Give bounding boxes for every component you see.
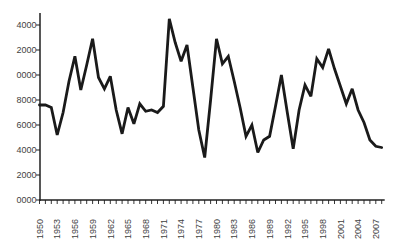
x-tick-label: 1968 bbox=[141, 219, 151, 239]
y-tick-label: 2000 bbox=[16, 170, 36, 180]
y-tick-label: 0000 bbox=[16, 195, 36, 205]
x-tick-label: 1983 bbox=[229, 219, 239, 239]
y-tick-label: 6000 bbox=[16, 120, 36, 130]
x-tick-label: 1974 bbox=[176, 219, 186, 239]
x-tick-label: 2007 bbox=[371, 219, 381, 239]
y-tick-label: 4000 bbox=[16, 20, 36, 30]
x-tick-label: 1980 bbox=[212, 219, 222, 239]
y-tick-label: 8000 bbox=[16, 95, 36, 105]
y-tick-label: 4000 bbox=[16, 145, 36, 155]
x-tick-label: 1989 bbox=[265, 219, 275, 239]
x-tick-label: 1956 bbox=[70, 219, 80, 239]
y-tick-label: 0000 bbox=[16, 70, 36, 80]
x-tick-label: 1977 bbox=[194, 219, 204, 239]
x-tick-label: 1971 bbox=[159, 219, 169, 239]
line-chart: 0000200040006000800000002000400019501953… bbox=[0, 0, 393, 248]
x-tick-label: 2001 bbox=[336, 219, 346, 239]
x-tick-label: 1962 bbox=[106, 219, 116, 239]
x-tick-label: 1998 bbox=[318, 219, 328, 239]
x-tick-label: 1965 bbox=[123, 219, 133, 239]
data-series-line bbox=[40, 19, 382, 158]
x-tick-label: 1992 bbox=[283, 219, 293, 239]
y-tick-label: 2000 bbox=[16, 45, 36, 55]
x-tick-label: 1986 bbox=[247, 219, 257, 239]
x-tick-label: 1950 bbox=[35, 219, 45, 239]
x-tick-label: 1959 bbox=[88, 219, 98, 239]
line-chart-figure: 0000200040006000800000002000400019501953… bbox=[0, 0, 393, 248]
x-tick-label: 1953 bbox=[52, 219, 62, 239]
x-tick-label: 1995 bbox=[300, 219, 310, 239]
x-tick-label: 2004 bbox=[353, 219, 363, 239]
